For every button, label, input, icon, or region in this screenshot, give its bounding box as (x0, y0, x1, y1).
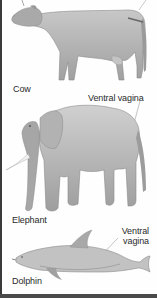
left-border (0, 0, 2, 298)
dolphin-annotation-line2: vagina (119, 236, 149, 246)
figure-frame: Cow Ventral vagina Elephant Ventral vagi… (0, 0, 157, 298)
elephant-ventral-vagina-annotation: Ventral vagina (88, 93, 144, 103)
animal-illustrations (0, 0, 157, 298)
elephant-label: Elephant (12, 215, 47, 225)
cow-label: Cow (13, 84, 31, 94)
elephant-illustration (6, 101, 146, 211)
bottom-border (0, 294, 157, 298)
cow-illustration (12, 0, 147, 80)
dolphin-label: Dolphin (12, 276, 42, 286)
dolphin-annotation-line1: Ventral (119, 226, 149, 236)
